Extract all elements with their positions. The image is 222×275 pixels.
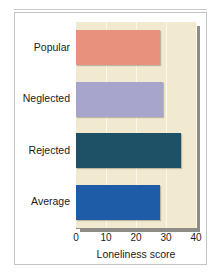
bar-fill	[76, 185, 160, 220]
bar-average	[76, 185, 160, 220]
x-tick-label-30: 30	[155, 232, 177, 243]
x-tick-label-0: 0	[65, 232, 87, 243]
bar-fill	[76, 82, 163, 117]
plot-area	[76, 22, 196, 228]
bar-neglected	[76, 82, 163, 117]
category-label-rejected: Rejected	[8, 144, 70, 156]
page-top-sliver	[0, 0, 222, 9]
x-axis-line	[76, 228, 196, 229]
x-tick-label-10: 10	[95, 232, 117, 243]
gridline-40	[196, 22, 197, 228]
category-label-neglected: Neglected	[8, 92, 70, 104]
x-tick-label-40: 40	[185, 232, 207, 243]
gridline-30	[166, 22, 167, 228]
x-axis-title: Loneliness score	[76, 248, 196, 260]
category-label-average: Average	[8, 195, 70, 207]
bar-popular	[76, 30, 160, 65]
bar-fill	[76, 133, 181, 168]
bar-rejected	[76, 133, 181, 168]
bar-fill	[76, 30, 160, 65]
top-divider-rule	[14, 9, 207, 10]
x-tick-label-20: 20	[125, 232, 147, 243]
category-label-popular: Popular	[8, 41, 70, 53]
